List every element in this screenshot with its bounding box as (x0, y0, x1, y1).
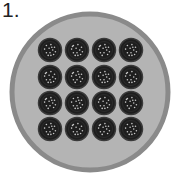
inner-circle (39, 92, 62, 115)
inner-circle (39, 66, 62, 89)
inner-circle (93, 66, 116, 89)
inner-circle (66, 39, 89, 62)
inner-circle (93, 118, 116, 141)
inner-circle (120, 118, 143, 141)
inner-circle (120, 39, 143, 62)
outer-disk (12, 14, 168, 170)
inner-circle (39, 39, 62, 62)
inner-circle (66, 66, 89, 89)
circle-grid-diagram (0, 0, 174, 181)
inner-circle (66, 92, 89, 115)
inner-circle (93, 39, 116, 62)
inner-circle (66, 118, 89, 141)
inner-circle (120, 92, 143, 115)
inner-circle (39, 118, 62, 141)
inner-circle (120, 66, 143, 89)
inner-circle (93, 92, 116, 115)
